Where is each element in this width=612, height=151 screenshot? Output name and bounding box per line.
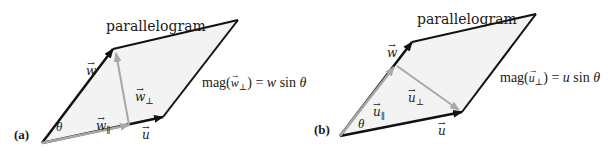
equation-b: mag(→u⊥) = u sin θ <box>500 71 600 87</box>
vec-u-b: →u <box>438 125 446 137</box>
vector-arrow-icon: → <box>529 66 535 75</box>
vector-arrow-icon: → <box>231 71 239 80</box>
perp-subscript: ⊥ <box>145 96 153 106</box>
vec-u-a: →u <box>142 129 150 141</box>
eq-b-vec: →u <box>529 72 535 84</box>
angle-theta-b: θ <box>358 117 364 130</box>
label-vector-u-a: →u <box>142 126 150 142</box>
parallelogram-title-a: parallelogram <box>106 19 206 33</box>
angle-theta-a: θ <box>56 120 62 133</box>
vector-arrow-icon: → <box>96 114 106 123</box>
vector-arrow-icon: → <box>86 59 96 68</box>
panel-label-a: (a) <box>14 128 29 141</box>
vec-w-parallel: →w <box>96 120 106 132</box>
label-vector-u-b: →u <box>438 122 446 138</box>
eq-b-rhs-func: sin <box>570 70 593 85</box>
vector-arrow-icon: → <box>135 85 145 94</box>
vec-u-parallel: →u <box>373 106 381 118</box>
vec-u-perp: →u <box>408 92 416 104</box>
label-u-perp: →u⊥ <box>408 89 424 107</box>
eq-a-rhs-angle: θ <box>300 75 307 90</box>
vec-w-a: →w <box>86 65 96 77</box>
eq-a-rhs-func: sin <box>276 75 299 90</box>
vec-w-b: →w <box>387 47 397 59</box>
label-w-parallel: →w∥ <box>96 117 110 135</box>
vec-w-perp: →w <box>135 91 145 103</box>
parallelogram-title-b: parallelogram <box>417 12 517 26</box>
eq-a-sub: ⊥ <box>239 82 247 92</box>
equation-a: mag(→w⊥) = w sin θ <box>202 76 306 92</box>
label-u-parallel: →u∥ <box>373 103 385 121</box>
eq-b-rhs-var: u <box>563 70 570 85</box>
eq-a-suffix: ) = <box>247 75 267 90</box>
vector-arrow-icon: → <box>142 123 150 132</box>
vector-arrow-icon: → <box>373 100 381 109</box>
label-w-perp: →w⊥ <box>135 88 154 106</box>
eq-a-vec: →w <box>231 77 239 89</box>
vector-arrow-icon: → <box>387 41 397 50</box>
eq-b-sub: ⊥ <box>535 77 543 87</box>
parallel-subscript: ∥ <box>106 125 110 135</box>
panel-label-b: (b) <box>314 123 330 136</box>
perp-subscript: ⊥ <box>416 97 424 107</box>
eq-a-prefix: mag( <box>202 75 231 90</box>
vector-arrow-icon: → <box>438 119 446 128</box>
eq-a-rhs-var: w <box>267 75 276 90</box>
label-vector-w-b: →w <box>387 44 397 60</box>
diagram-canvas: parallelogram (a) →w →w⊥ →w∥ →u θ mag(→w… <box>0 0 612 151</box>
eq-b-rhs-angle: θ <box>593 70 600 85</box>
eq-b-suffix: ) = <box>543 70 563 85</box>
eq-b-prefix: mag( <box>500 70 529 85</box>
vector-arrow-icon: → <box>408 86 416 95</box>
parallel-subscript: ∥ <box>381 111 385 121</box>
label-vector-w-a: →w <box>86 62 96 78</box>
